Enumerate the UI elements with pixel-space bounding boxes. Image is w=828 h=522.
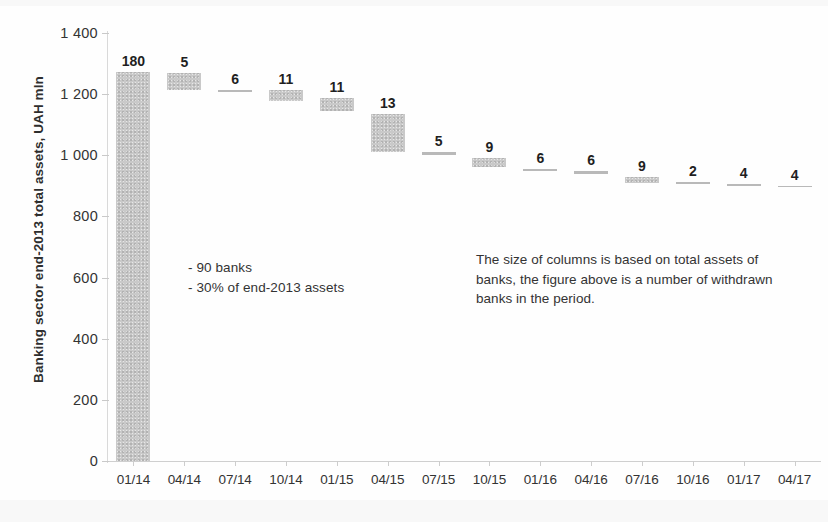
x-tick-mark xyxy=(388,461,389,466)
bar-01-15 xyxy=(320,98,354,111)
bar-07-14 xyxy=(218,90,252,92)
scan-artifact-top xyxy=(0,0,828,6)
bar-04-16 xyxy=(574,171,608,173)
y-tick-label: 1 000 xyxy=(40,147,98,163)
x-tick-mark xyxy=(489,461,490,466)
bar-value-label: 13 xyxy=(358,95,418,111)
bar-07-15 xyxy=(422,152,456,155)
y-tick-label: 600 xyxy=(40,270,98,286)
bar-10-14 xyxy=(269,90,303,101)
x-tick-mark xyxy=(693,461,694,466)
y-tick-mark xyxy=(102,461,109,462)
y-tick-label: 1 200 xyxy=(40,86,98,102)
x-axis-line xyxy=(107,461,821,462)
y-tick-label: 1 400 xyxy=(40,25,98,41)
x-tick-mark xyxy=(439,461,440,466)
y-axis-title: Banking sector end-2013 total assets, UA… xyxy=(31,20,46,440)
x-tick-mark xyxy=(744,461,745,466)
y-tick-label: 0 xyxy=(40,453,98,469)
y-tick-mark xyxy=(102,155,109,156)
methodology-note: The size of columns is based on total as… xyxy=(476,250,786,309)
bar-value-label: 11 xyxy=(307,79,367,95)
bar-04-17 xyxy=(778,186,812,188)
x-tick-mark xyxy=(286,461,287,466)
y-tick-mark xyxy=(102,400,109,401)
x-tick-mark xyxy=(795,461,796,466)
y-tick-label: 400 xyxy=(40,331,98,347)
bar-01-16 xyxy=(523,169,557,171)
x-tick-mark xyxy=(184,461,185,466)
bar-04-14 xyxy=(167,73,201,89)
x-tick-label: 04/17 xyxy=(765,472,825,487)
bar-value-label: 4 xyxy=(765,167,825,183)
bar-07-16 xyxy=(625,177,659,183)
x-tick-mark xyxy=(591,461,592,466)
y-tick-mark xyxy=(102,278,109,279)
y-tick-label: 800 xyxy=(40,208,98,224)
bar-value-label: 5 xyxy=(154,54,214,70)
x-tick-mark xyxy=(337,461,338,466)
y-tick-mark xyxy=(102,216,109,217)
bar-04-15 xyxy=(371,114,405,152)
bar-01-14 xyxy=(116,72,150,461)
y-tick-label: 200 xyxy=(40,392,98,408)
y-tick-mark xyxy=(102,33,109,34)
y-tick-mark xyxy=(102,94,109,95)
scan-artifact-bottom xyxy=(0,500,828,522)
x-tick-mark xyxy=(642,461,643,466)
bar-10-16 xyxy=(676,182,710,184)
withdrawn-banks-summary-note: - 90 banks - 30% of end-2013 assets xyxy=(188,258,344,297)
y-axis-line xyxy=(107,31,108,463)
y-tick-mark xyxy=(102,339,109,340)
waterfall-chart: Banking sector end-2013 total assets, UA… xyxy=(0,0,828,522)
bar-01-17 xyxy=(727,184,761,186)
x-tick-mark xyxy=(235,461,236,466)
x-tick-mark xyxy=(133,461,134,466)
x-tick-mark xyxy=(540,461,541,466)
bar-10-15 xyxy=(472,158,506,167)
